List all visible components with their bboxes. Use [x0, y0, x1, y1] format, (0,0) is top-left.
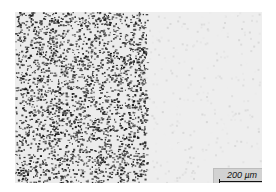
- precipitate-dots: [15, 12, 262, 183]
- scale-bar-line: [219, 181, 262, 182]
- micrograph-image: 200 µm: [15, 12, 262, 183]
- scale-bar-box: 200 µm: [213, 168, 262, 183]
- scale-bar-label: 200 µm: [214, 170, 262, 180]
